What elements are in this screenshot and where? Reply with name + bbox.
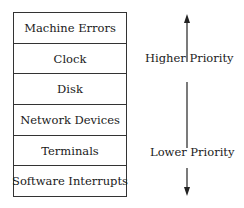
priority-stack: Machine Errors Clock Disk Network Device…: [13, 12, 127, 197]
double-headed-arrow-icon: [182, 14, 192, 196]
level-network-devices: Network Devices: [14, 105, 126, 136]
higher-priority-label: Higher Priority: [145, 51, 234, 65]
level-machine-errors: Machine Errors: [14, 13, 126, 44]
level-disk: Disk: [14, 74, 126, 105]
lower-priority-label: Lower Priority: [150, 145, 235, 159]
level-software-interrupts: Software Interrupts: [14, 166, 126, 196]
level-terminals: Terminals: [14, 136, 126, 167]
level-clock: Clock: [14, 44, 126, 75]
